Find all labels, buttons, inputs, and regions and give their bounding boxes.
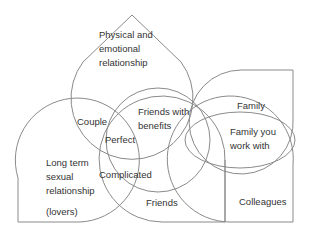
label-perfect: Perfect: [105, 133, 135, 147]
label-line: emotional: [99, 42, 153, 56]
label-line: Friends with: [138, 105, 189, 119]
label-lovers: (lovers): [46, 205, 78, 219]
label-friends-with-benefits: Friends with benefits: [138, 105, 189, 133]
label-line: sexual: [46, 170, 95, 184]
label-family: Family: [237, 99, 265, 113]
label-line: Long term: [46, 156, 95, 170]
label-colleagues: Colleagues: [239, 195, 287, 209]
label-couple: Couple: [77, 115, 107, 129]
family-teardrop: [189, 70, 293, 174]
label-line: work with: [230, 139, 276, 153]
label-line: benefits: [138, 119, 189, 133]
label-line: relationship: [46, 184, 95, 198]
label-family-work: Family you work with: [230, 125, 276, 153]
label-line: Family you: [230, 125, 276, 139]
label-long-term: Long term sexual relationship: [46, 156, 95, 198]
label-line: Physical and: [99, 28, 153, 42]
label-line: relationship: [99, 56, 153, 70]
label-friends: Friends: [146, 196, 178, 210]
label-complicated: Complicated: [99, 168, 152, 182]
label-physical-emotional: Physical and emotional relationship: [99, 28, 153, 70]
